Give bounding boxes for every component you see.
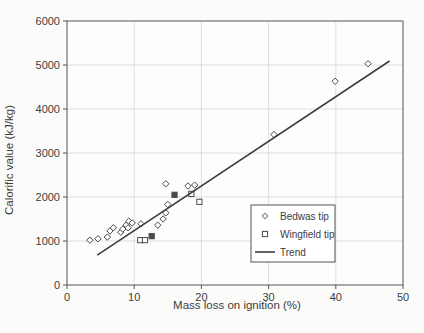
legend-item-label: Wingfield tip bbox=[280, 229, 335, 240]
x-tick-label: 40 bbox=[330, 291, 342, 303]
y-tick-label: 5000 bbox=[36, 59, 60, 71]
legend-item-label: Bedwas tip bbox=[280, 211, 329, 222]
x-tick-label: 10 bbox=[128, 291, 140, 303]
x-axis-title: Mass loss on ignition (%) bbox=[173, 299, 301, 311]
chart-figure: 010203040500100020003000400050006000 Bed… bbox=[0, 0, 424, 333]
scatter-chart: 010203040500100020003000400050006000 Bed… bbox=[0, 0, 424, 333]
grid-layer bbox=[67, 21, 403, 285]
y-tick-label: 4000 bbox=[36, 103, 60, 115]
wingfield-point bbox=[149, 234, 154, 239]
y-axis-title: Calorific value (kJ/kg) bbox=[3, 105, 15, 215]
wingfield-point bbox=[142, 238, 147, 243]
x-tick-label: 50 bbox=[397, 291, 409, 303]
legend-square-icon bbox=[262, 231, 267, 236]
y-tick-label: 2000 bbox=[36, 191, 60, 203]
legend-item-label: Trend bbox=[280, 247, 306, 258]
wingfield-point bbox=[172, 192, 177, 197]
x-tick-label: 0 bbox=[64, 291, 70, 303]
y-tick-label: 0 bbox=[54, 279, 60, 291]
y-tick-label: 3000 bbox=[36, 147, 60, 159]
y-tick-label: 6000 bbox=[36, 15, 60, 27]
y-tick-label: 1000 bbox=[36, 235, 60, 247]
legend: Bedwas tipWingfield tipTrend bbox=[251, 205, 335, 262]
wingfield-point bbox=[197, 199, 202, 204]
